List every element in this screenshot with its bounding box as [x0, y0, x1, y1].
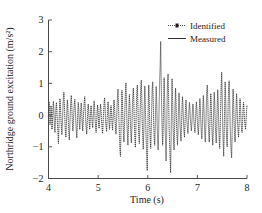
plot-area [49, 42, 248, 173]
y-tick-label: 3 [39, 14, 44, 25]
x-tick-labels: 45678 [46, 182, 250, 193]
x-tick-label: 4 [46, 182, 51, 193]
legend: Identified Measured [168, 21, 226, 44]
chart-svg: −2−10123 45678 Time (s) Northridge groun… [0, 0, 262, 213]
y-tick-label: 0 [39, 110, 44, 121]
y-tick-label: 2 [39, 46, 44, 57]
chart-figure: −2−10123 45678 Time (s) Northridge groun… [0, 0, 262, 213]
legend-label-measured: Measured [190, 34, 226, 44]
y-tick-labels: −2−10123 [33, 14, 44, 184]
x-tick-marks [49, 175, 248, 179]
x-tick-label: 6 [145, 182, 150, 193]
y-tick-label: −1 [33, 141, 44, 152]
y-axis: −2−10123 [33, 14, 52, 184]
y-tick-marks [49, 20, 53, 179]
series-identified-line [49, 42, 248, 173]
x-tick-label: 7 [195, 182, 200, 193]
y-axis-title: Northridge ground excitation (m/s²) [4, 27, 16, 170]
x-tick-label: 5 [96, 182, 101, 193]
y-tick-label: −2 [33, 173, 44, 184]
x-axis-title: Time (s) [130, 194, 164, 206]
x-tick-label: 8 [245, 182, 250, 193]
y-tick-label: 1 [39, 78, 44, 89]
x-axis: 45678 [46, 175, 250, 193]
legend-label-identified: Identified [190, 21, 225, 31]
legend-identified-marker-icon [176, 24, 179, 28]
